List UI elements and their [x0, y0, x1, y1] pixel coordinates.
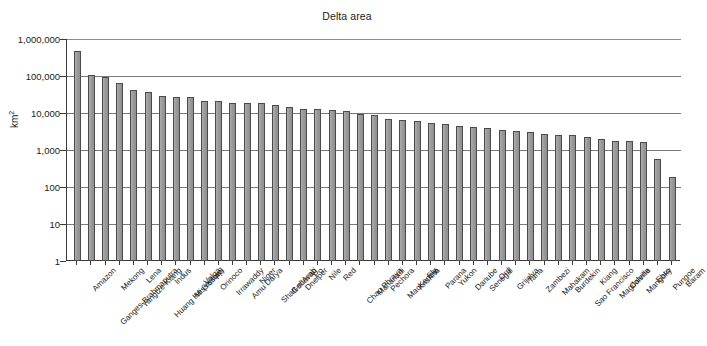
x-axis-tick: [119, 261, 120, 265]
x-axis-tick: [444, 261, 445, 265]
x-axis-tick: [643, 261, 644, 265]
bar: [484, 128, 491, 261]
x-axis-tick: [473, 261, 474, 265]
x-axis-tick: [388, 261, 389, 265]
x-axis-tick: [529, 261, 530, 265]
bar: [669, 177, 676, 261]
bar: [116, 83, 123, 261]
x-axis-tick: [331, 261, 332, 265]
x-axis-tick: [232, 261, 233, 265]
bar: [399, 120, 406, 261]
bar: [584, 137, 591, 261]
x-axis-tick: [133, 261, 134, 265]
bar: [499, 130, 506, 261]
y-axis-tick-label: 1,000,000: [4, 34, 60, 45]
bar: [102, 77, 109, 261]
y-axis-tick-label: 100,000: [4, 71, 60, 82]
bar: [244, 103, 251, 261]
y-axis-tick-label: 1,000: [4, 145, 60, 156]
x-axis-tick: [558, 261, 559, 265]
bar: [654, 159, 661, 261]
bar: [541, 134, 548, 261]
bar: [640, 142, 647, 261]
x-axis-tick: [190, 261, 191, 265]
x-axis-tick: [274, 261, 275, 265]
x-axis-tick: [218, 261, 219, 265]
bar: [598, 139, 605, 261]
x-axis-tick: [260, 261, 261, 265]
x-axis-tick: [246, 261, 247, 265]
bar: [329, 110, 336, 261]
y-axis-tick-label: 100: [4, 182, 60, 193]
x-axis-tick: [515, 261, 516, 265]
x-axis-tick: [671, 261, 672, 265]
x-axis-tick: [175, 261, 176, 265]
x-axis-tick: [359, 261, 360, 265]
x-axis-tick: [572, 261, 573, 265]
x-axis-tick-label: Tana: [526, 266, 545, 285]
bar: [300, 109, 307, 261]
bar: [201, 101, 208, 261]
x-axis-tick: [317, 261, 318, 265]
x-axis-tick: [586, 261, 587, 265]
bar: [145, 92, 152, 261]
x-axis-tick-label: Red: [341, 266, 358, 283]
x-axis-tick: [544, 261, 545, 265]
x-axis-tick: [289, 261, 290, 265]
x-axis-tick: [76, 261, 77, 265]
x-axis-tick: [402, 261, 403, 265]
bar: [215, 101, 222, 261]
bar: [470, 127, 477, 261]
bar: [88, 75, 95, 261]
bar: [385, 119, 392, 261]
x-axis-tick: [657, 261, 658, 265]
x-axis-tick: [430, 261, 431, 265]
x-axis-tick: [204, 261, 205, 265]
bar: [428, 123, 435, 261]
bar: [626, 141, 633, 261]
x-axis-tick: [614, 261, 615, 265]
bar: [272, 105, 279, 261]
x-axis-tick: [147, 261, 148, 265]
x-axis-tick: [459, 261, 460, 265]
plot-area: [66, 39, 680, 261]
x-axis-tick: [90, 261, 91, 265]
x-axis-tick: [345, 261, 346, 265]
chart-title: Delta area: [0, 10, 694, 22]
bar: [159, 96, 166, 261]
bar: [258, 103, 265, 261]
bar: [187, 97, 194, 261]
bar: [527, 132, 534, 261]
bar: [612, 141, 619, 261]
bar: [74, 51, 81, 261]
x-axis-tick: [161, 261, 162, 265]
bar-series: [67, 39, 681, 261]
x-axis-tick-label: Amazon: [91, 266, 118, 293]
bar: [414, 121, 421, 261]
y-axis-tick-label: 1: [4, 256, 60, 267]
x-axis-tick: [105, 261, 106, 265]
bar: [456, 126, 463, 261]
bar: [130, 90, 137, 261]
x-axis-tick: [303, 261, 304, 265]
x-axis-tick: [487, 261, 488, 265]
bar: [569, 135, 576, 261]
y-axis-tick-labels: 1,000,000100,00010,0001,000100101: [0, 0, 60, 346]
y-axis-tick-label: 10: [4, 219, 60, 230]
x-axis-tick: [501, 261, 502, 265]
x-axis-tick: [629, 261, 630, 265]
x-axis-tick-labels: AmazonGanges-BrahmaputraMekongYangtze-Ki…: [66, 266, 694, 346]
bar: [286, 107, 293, 262]
bar: [314, 109, 321, 261]
x-axis-tick: [416, 261, 417, 265]
bar: [173, 97, 180, 261]
x-axis-tick-label: Mekong: [119, 266, 145, 292]
bar: [229, 103, 236, 261]
bar: [555, 135, 562, 261]
bar: [513, 131, 520, 261]
y-axis-tick-label: 10,000: [4, 108, 60, 119]
x-axis-tick: [600, 261, 601, 265]
bar: [343, 111, 350, 261]
bar: [442, 124, 449, 261]
